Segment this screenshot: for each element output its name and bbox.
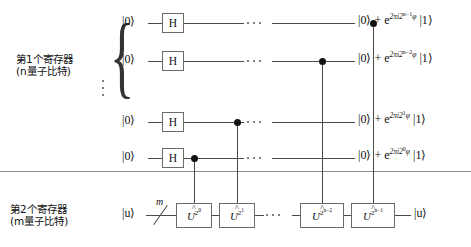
wire-1-segment-b: [272, 23, 355, 24]
wire-2-segment-b: [272, 61, 355, 62]
gate-hadamard-label: H: [169, 152, 177, 164]
gate-u-4-label: ^U2n−1: [363, 210, 383, 222]
wire-2-segment-a: [184, 61, 244, 62]
wire-4-input-ket: |0⟩: [122, 150, 135, 164]
register-1-label: 第1个寄存器 (n量子比特): [16, 53, 112, 77]
gate-hadamard-wire-2[interactable]: H: [162, 51, 184, 71]
gate-hadamard-wire-1[interactable]: H: [162, 13, 184, 33]
wire-4-horizontal-ellipsis: [247, 157, 261, 159]
gate-u-3-label: ^U2n−2: [312, 210, 332, 222]
gate-hadamard-label: H: [169, 17, 177, 29]
bottom-wire-segment-1: [212, 215, 219, 216]
wire-1-output-state: |0⟩ + e2πi2n−1φ |1⟩: [358, 13, 433, 27]
bottom-wire-segment-2: [255, 215, 264, 216]
control-dot-wire-4[interactable]: [191, 155, 198, 162]
wire-4-phase: φ: [406, 147, 410, 156]
wire-2-input-ket: |0⟩: [122, 53, 135, 67]
control-dot-wire-1[interactable]: [370, 20, 377, 27]
hat-icon: ^: [192, 204, 196, 213]
wire-1-segment-a: [184, 23, 244, 24]
wire-3-horizontal-ellipsis: [247, 121, 261, 123]
wire-2-output-suffix: |1⟩: [419, 51, 432, 65]
gate-controlled-u-2[interactable]: ^U21: [219, 203, 255, 228]
control-line-u4: [373, 23, 374, 203]
wire-2-phase: φ: [412, 50, 416, 59]
wire-3-phase: φ: [406, 111, 410, 120]
gate-controlled-u-4[interactable]: ^U2n−1: [351, 203, 395, 228]
control-dot-wire-2[interactable]: [319, 58, 326, 65]
wire-2-horizontal-ellipsis: [247, 60, 261, 62]
register-1-name: 第1个寄存器: [16, 53, 73, 65]
wire-4-output-suffix: |1⟩: [413, 148, 426, 162]
wire-3-input-ket: |0⟩: [122, 114, 135, 128]
register-1-vertical-ellipsis: [102, 80, 104, 96]
register-1-qubits-note: (n量子比特): [16, 65, 112, 77]
wire-1-horizontal-ellipsis: [247, 22, 261, 24]
register-2-qubits-note: (m量子比特): [10, 215, 110, 227]
wire-4-segment-b: [272, 158, 355, 159]
wire-3-output-suffix: |1⟩: [413, 112, 426, 126]
control-line-u1: [194, 158, 195, 203]
wire-2-output-state: |0⟩ + e2πi2n−2φ |1⟩: [358, 51, 433, 65]
hat-icon: ^: [320, 204, 324, 213]
register-2-name: 第2个寄存器: [10, 203, 67, 215]
wire-4-exp-base: 2πi2: [390, 147, 403, 156]
wire-1-input-ket: |0⟩: [122, 15, 135, 29]
quantum-circuit-diagram: 第1个寄存器 (n量子比特) { 第2个寄存器 (m量子比特) |0⟩ H |0…: [0, 0, 471, 247]
bottom-output-ket: |u⟩: [414, 207, 427, 221]
wire-1-exp-sup: n−1: [403, 10, 412, 16]
wire-3-exp-base: 2πi2: [390, 111, 403, 120]
hat-icon: ^: [371, 204, 375, 213]
wire-3-segment-b: [272, 122, 355, 123]
wire-3-segment-pre-h: [148, 122, 162, 123]
bottom-wire-segment-3: [292, 215, 300, 216]
gate-hadamard-wire-4[interactable]: H: [162, 148, 184, 168]
wire-2-exp-sup: n−2: [403, 48, 412, 54]
wire-3-output-state: |0⟩ + e2πi21φ |1⟩: [358, 112, 426, 126]
bottom-wire-segment-4: [344, 215, 351, 216]
gate-hadamard-label: H: [169, 55, 177, 67]
hat-icon: ^: [235, 204, 239, 213]
wire-2-segment-pre-h: [148, 61, 162, 62]
register-separator-line: [0, 171, 471, 172]
gate-controlled-u-3[interactable]: ^U2n−2: [300, 203, 344, 228]
control-line-u2: [237, 122, 238, 203]
gate-controlled-u-1[interactable]: ^U20: [176, 203, 212, 228]
wire-4-segment-pre-h: [148, 158, 162, 159]
bottom-wire-horizontal-ellipsis: [266, 214, 280, 216]
wire-2-exp-base: 2πi2: [390, 50, 403, 59]
wire-1-exp-base: 2πi2: [390, 12, 403, 21]
bottom-input-ket: |u⟩: [122, 207, 135, 221]
register-2-label: 第2个寄存器 (m量子比特): [10, 203, 110, 227]
control-line-u3: [322, 61, 323, 203]
bottom-wire-segment-5: [395, 215, 411, 216]
bus-width-label: m: [156, 196, 163, 208]
wire-1-phase: φ: [412, 12, 416, 21]
wire-1-segment-pre-h: [148, 23, 162, 24]
gate-u-2-label: ^U21: [230, 210, 244, 222]
wire-4-output-state: |0⟩ + e2πi20φ |1⟩: [358, 148, 426, 162]
gate-u-1-label: ^U20: [187, 210, 201, 222]
gate-hadamard-wire-3[interactable]: H: [162, 112, 184, 132]
control-dot-wire-3[interactable]: [234, 119, 241, 126]
wire-1-output-suffix: |1⟩: [419, 13, 432, 27]
gate-hadamard-label: H: [169, 116, 177, 128]
